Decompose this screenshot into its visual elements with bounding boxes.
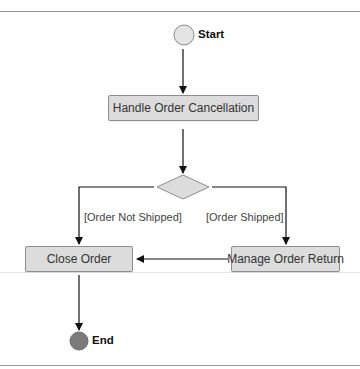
activity-close-order: Close Order — [25, 246, 133, 272]
decision-node — [157, 175, 209, 199]
guard-order-not-shipped: [Order Not Shipped] — [84, 211, 182, 223]
end-label: End — [92, 334, 114, 346]
start-node — [174, 25, 194, 45]
end-node — [70, 332, 88, 350]
start-label: Start — [198, 28, 224, 40]
activity-manage-order-return: Manage Order Return — [231, 246, 340, 272]
guard-order-shipped: [Order Shipped] — [206, 211, 284, 223]
diagram-edges — [0, 0, 360, 369]
activity-handle-order-cancellation: Handle Order Cancellation — [108, 95, 259, 121]
